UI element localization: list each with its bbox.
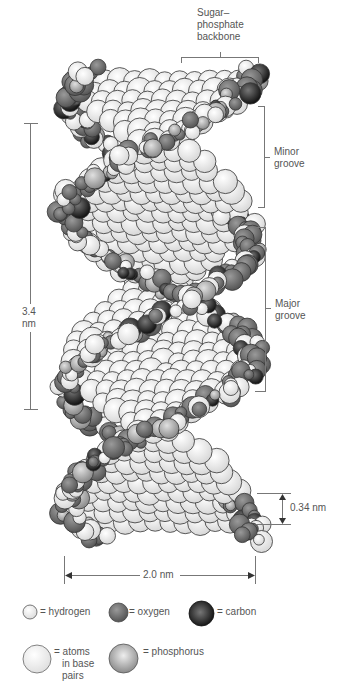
legend-label-line: pairs bbox=[54, 670, 94, 682]
legend-item-hydrogen: = hydrogen bbox=[22, 604, 90, 620]
backbone-label: Sugar– phosphate backbone bbox=[197, 7, 244, 43]
legend-label: = oxygen bbox=[129, 606, 170, 618]
legend-item-phosphorus: = phosphorus bbox=[108, 643, 204, 674]
legend-item-oxygen: = oxygen bbox=[108, 602, 170, 623]
legend-item-carbon: = carbon bbox=[188, 600, 256, 627]
oxygen-atom-icon bbox=[108, 602, 129, 623]
major-groove-label-line: Major bbox=[275, 298, 306, 310]
legend-label: = hydrogen bbox=[40, 606, 90, 618]
minor-groove-label-line: groove bbox=[274, 158, 305, 170]
backbone-label-line: Sugar– bbox=[197, 7, 244, 19]
pitch-label-line: 3.4 bbox=[22, 306, 36, 318]
pitch-label-line: nm bbox=[22, 318, 36, 330]
legend-label-line: = atoms bbox=[54, 646, 94, 658]
legend-label-line: in base bbox=[54, 658, 94, 670]
backbone-label-line: backbone bbox=[197, 31, 244, 43]
minor-groove-label-line: Minor bbox=[274, 146, 305, 158]
minor-groove-label: Minor groove bbox=[274, 146, 305, 170]
backbone-label-line: phosphate bbox=[197, 19, 244, 31]
pitch-label: 3.4 nm bbox=[22, 306, 36, 330]
dna-helix-model bbox=[0, 0, 347, 560]
phosphorus-atom-icon bbox=[108, 643, 139, 674]
carbon-atom-icon bbox=[188, 600, 215, 627]
legend-label: = phosphorus bbox=[143, 646, 204, 658]
major-groove-label-line: groove bbox=[275, 310, 306, 322]
hydrogen-atom-icon bbox=[22, 604, 38, 620]
legend-label: = carbon bbox=[217, 606, 256, 618]
major-groove-label: Major groove bbox=[275, 298, 306, 322]
legend-item-base-pairs: = atoms in base pairs bbox=[22, 644, 94, 682]
base-spacing-label: 0.34 nm bbox=[290, 502, 326, 514]
double-arrow-icon bbox=[278, 493, 287, 525]
base-pair-atom-icon bbox=[22, 644, 52, 674]
legend-label: = atoms in base pairs bbox=[54, 646, 94, 682]
diameter-label: 2.0 nm bbox=[143, 569, 174, 581]
